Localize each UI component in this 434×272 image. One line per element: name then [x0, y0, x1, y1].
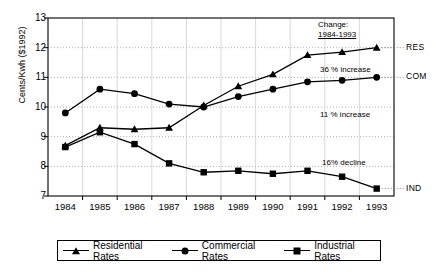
annotation-industrial-change: 16% decline — [322, 158, 366, 168]
annotation-change-header-line1: Change: — [318, 20, 348, 30]
square-marker-icon — [270, 171, 276, 177]
square-marker-icon — [201, 169, 207, 175]
legend-label: Industrial Rates — [314, 240, 375, 262]
plot-area — [0, 0, 434, 272]
square-marker-icon — [62, 144, 68, 150]
series-end-label-com: COM — [406, 72, 427, 81]
triangle-marker-icon — [373, 44, 381, 51]
x-tick-label: 1986 — [118, 202, 152, 212]
x-tick-label: 1984 — [48, 202, 82, 212]
square-marker-icon — [284, 246, 310, 256]
circle-marker-icon — [373, 74, 380, 81]
square-marker-icon — [374, 185, 380, 191]
circle-marker-icon — [270, 86, 277, 93]
legend-item-residential: Residential Rates — [58, 240, 167, 262]
circle-marker-icon — [166, 101, 173, 108]
square-marker-icon — [131, 141, 137, 147]
square-marker-icon — [304, 168, 310, 174]
x-tick-label: 1991 — [291, 202, 325, 212]
chart-legend: Residential Rates Commercial Rates Indus… — [57, 240, 381, 261]
triangle-marker-icon — [269, 70, 277, 77]
circle-marker-icon — [131, 90, 138, 97]
annotation-residential-change: 36 % increase — [320, 65, 371, 75]
x-tick-label: 1988 — [187, 202, 221, 212]
legend-item-industrial: Industrial Rates — [279, 240, 380, 262]
circle-marker-icon — [97, 86, 104, 93]
x-tick-label: 1985 — [83, 202, 117, 212]
square-marker-icon — [339, 174, 345, 180]
square-marker-icon — [166, 160, 172, 166]
x-tick-label: 1992 — [325, 202, 359, 212]
circle-marker-icon — [200, 104, 207, 111]
x-tick-label: 1993 — [360, 202, 394, 212]
series-end-label-ind: IND — [406, 184, 422, 193]
chart-container: Cents/Kwh ($1992) 13 12 11 10 9 8 7 1984… — [0, 0, 434, 272]
x-tick-label: 1989 — [221, 202, 255, 212]
series-end-label-res: RES — [406, 43, 424, 52]
triangle-marker-icon — [63, 246, 89, 256]
x-tick-label: 1990 — [256, 202, 290, 212]
circle-marker-icon — [304, 78, 311, 85]
square-marker-icon — [97, 129, 103, 135]
annotation-commercial-change: 11 % increase — [320, 110, 370, 120]
circle-marker-icon — [339, 77, 346, 84]
circle-marker-icon — [62, 110, 69, 117]
circle-marker-icon — [172, 246, 198, 256]
legend-label: Commercial Rates — [202, 240, 274, 262]
square-marker-icon — [235, 168, 241, 174]
annotation-change-header-line2: 1984-1993 — [318, 30, 356, 40]
legend-item-commercial: Commercial Rates — [167, 240, 279, 262]
x-tick-label: 1987 — [152, 202, 186, 212]
legend-label: Residential Rates — [93, 240, 162, 262]
circle-marker-icon — [235, 93, 242, 100]
